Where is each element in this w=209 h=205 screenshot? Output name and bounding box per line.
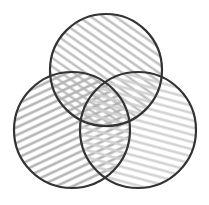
circle-fills: [14, 14, 196, 188]
venn-diagram: [0, 0, 209, 205]
